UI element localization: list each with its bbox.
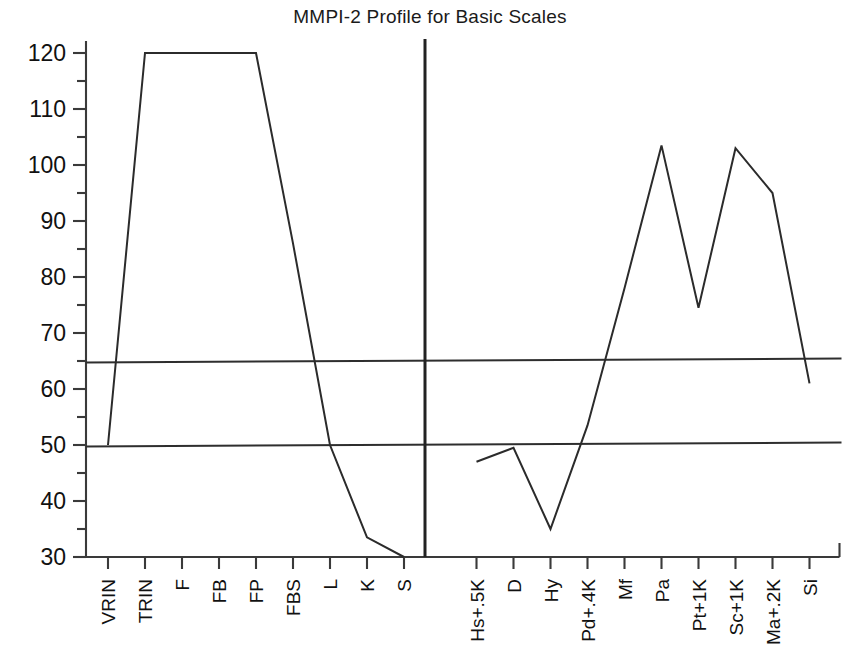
x-tick-label: TRIN [135,579,156,623]
y-tick-label: 40 [40,488,66,514]
reference-line-50 [86,443,842,447]
plot-area: 30405060708090100110120VRINTRINFFBFPFBSL… [0,0,860,669]
x-tick-label: Pa [652,579,673,603]
series-line-clinical [477,145,810,529]
x-tick-label: FBS [283,579,304,616]
x-tick-label: Si [800,579,821,596]
x-tick-label: Ma+.2K [763,579,784,645]
y-tick-label: 80 [40,264,66,290]
y-tick-label: 120 [28,40,66,66]
x-tick-label: Hy [541,579,562,603]
x-tick-label: D [504,579,525,593]
x-tick-label: F [172,579,193,591]
x-tick-label: Sc+1K [726,579,747,636]
y-tick-label: 60 [40,376,66,402]
x-tick-label: VRIN [98,579,119,624]
reference-line-65 [86,359,842,363]
series-line-validity [108,53,404,557]
y-tick-label: 70 [40,320,66,346]
y-tick-label: 50 [40,432,66,458]
x-tick-label: Pd+.4K [578,579,599,642]
y-tick-label: 90 [40,208,66,234]
x-tick-label: L [320,579,341,590]
x-tick-label: S [394,579,415,592]
x-tick-label: Hs+.5K [467,579,488,642]
x-tick-label: K [357,579,378,592]
x-tick-label: Mf [615,578,636,600]
y-tick-label: 100 [28,152,66,178]
mmpi-profile-chart: MMPI-2 Profile for Basic Scales 30405060… [0,0,860,669]
y-tick-label: 30 [40,544,66,570]
x-tick-label: FB [209,579,230,603]
x-tick-label: FP [246,579,267,603]
x-tick-label: Pt+1K [689,579,710,632]
y-tick-label: 110 [29,96,66,122]
